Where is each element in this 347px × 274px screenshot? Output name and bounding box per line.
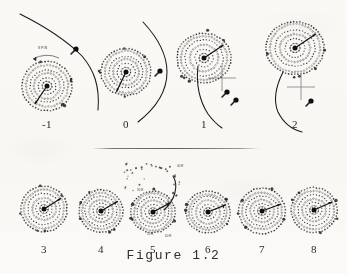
galaxy-panel-2	[265, 21, 326, 132]
galaxy-panel-0	[98, 22, 167, 122]
radius-annotation-label: 60 R	[165, 234, 171, 238]
figure-artwork	[0, 0, 347, 274]
galaxy-panel--1	[20, 14, 98, 112]
galaxy-panel-6	[184, 190, 231, 233]
panel-label--1: -1	[27, 118, 67, 130]
radius-annotation-label: 40 R	[177, 164, 183, 168]
galaxy-panel-5	[123, 163, 180, 234]
panel-label-2: 2	[275, 118, 315, 130]
row-divider-line	[92, 148, 260, 149]
galaxy-panel-1	[176, 29, 238, 128]
galaxy-panel-7	[237, 187, 286, 235]
companion-trajectory	[20, 14, 98, 110]
panel-label-1: 1	[184, 118, 224, 130]
figure-container: -1SPIN01234530 R40 R50 R60 R678 Figure 1…	[0, 0, 347, 274]
galaxy-panel-8	[290, 186, 338, 234]
figure-caption: Figure 1.2	[0, 248, 347, 263]
galaxy-panel-3	[19, 184, 68, 232]
galaxy-panel-4	[78, 189, 124, 234]
radius-annotation-label: 30 R	[137, 188, 143, 192]
spin-annotation-label: SPIN	[38, 46, 48, 50]
radius-annotation-label: 50 R	[147, 232, 153, 236]
panel-label-0: 0	[106, 118, 146, 130]
